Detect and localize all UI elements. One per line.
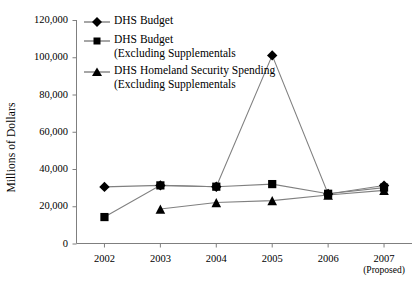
chart-container: Millions of Dollars 020,00040,00060,0008… (0, 0, 418, 295)
x-axis-ticks (104, 244, 384, 248)
data-point-marker (156, 181, 164, 189)
x-axis-tick-label: 2006 (318, 253, 339, 265)
x-axis-tick-label: 2003 (150, 253, 171, 265)
x-axis-tick-label: 2004 (206, 253, 227, 265)
chart-legend: DHS Budget DHS Budget (Excluding Supplem… (84, 14, 334, 95)
legend-item-label: DHS Budget (114, 14, 173, 28)
series-line (104, 184, 384, 217)
diamond-marker-icon (84, 15, 110, 29)
legend-item-dhs-budget-excl-supplementals: DHS Budget (Excluding Supplementals (84, 33, 334, 60)
legend-item-label: DHS Budget (Excluding Supplementals (114, 33, 236, 60)
y-axis-ticks (73, 21, 77, 245)
legend-item-dhs-homeland-security-spending: DHS Homeland Security Spending (Excludin… (84, 64, 334, 91)
legend-item-dhs-budget: DHS Budget (84, 14, 334, 29)
data-point-marker (100, 213, 108, 221)
data-point-marker (212, 183, 220, 191)
square-marker-icon (84, 34, 110, 48)
legend-item-label: DHS Homeland Security Spending (Excludin… (114, 64, 275, 91)
x-axis-tick-label: 2007(Proposed) (363, 253, 405, 276)
x-axis-tick-label: 2002 (94, 253, 115, 265)
data-point-marker (268, 180, 276, 188)
x-axis-tick-label: 2005 (262, 253, 283, 265)
x-axis-tick-sublabel: (Proposed) (363, 265, 405, 276)
triangle-marker-icon (84, 65, 110, 79)
data-point-marker (99, 182, 109, 192)
